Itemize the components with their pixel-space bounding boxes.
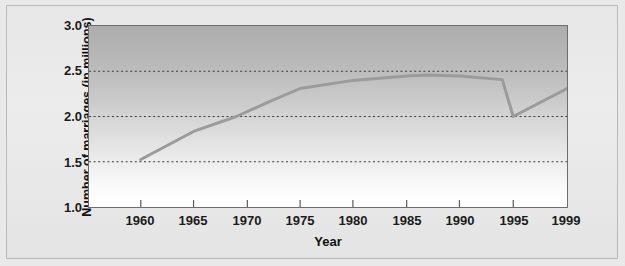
x-axis-ticks xyxy=(141,200,513,207)
y-tick-label: 1.5 xyxy=(48,155,82,170)
x-tick-label: 1985 xyxy=(393,213,422,228)
x-tick-label: 1970 xyxy=(233,213,262,228)
x-tick-label: 1995 xyxy=(500,213,529,228)
data-line-marriages xyxy=(141,75,567,159)
x-axis-title: Year xyxy=(88,234,568,249)
x-tick-label: 1960 xyxy=(126,213,155,228)
x-tick-label: 1990 xyxy=(446,213,475,228)
plot-canvas xyxy=(89,26,567,207)
x-tick-label: 1980 xyxy=(339,213,368,228)
y-axis-title-container: Number of marriages (in millions) xyxy=(30,25,44,208)
x-tick-label: 1975 xyxy=(286,213,315,228)
x-tick-label: 1965 xyxy=(179,213,208,228)
x-axis-tick-labels: 1960 1965 1970 1975 1980 1985 1990 1995 … xyxy=(0,213,625,233)
y-tick-label: 2.0 xyxy=(48,109,82,124)
x-tick-label: 1999 xyxy=(552,213,581,228)
y-tick-label: 2.5 xyxy=(48,63,82,78)
y-tick-label: 3.0 xyxy=(48,18,82,33)
chart-figure: Number of marriages (in millions) 3.0 2.… xyxy=(0,0,625,266)
plot-area xyxy=(88,25,568,208)
